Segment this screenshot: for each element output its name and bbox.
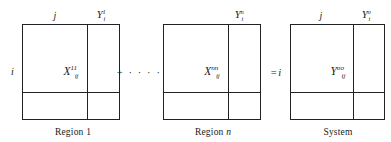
- block-3-center-variable: Yooij: [330, 66, 345, 78]
- block-2-vertical-divider: [228, 25, 229, 119]
- block-3-center-subscript: ij: [342, 73, 346, 81]
- equals-row-index: i: [278, 67, 281, 78]
- block-1-center-variable: X11ij: [63, 66, 78, 78]
- block-3-corner-subscript: i: [369, 15, 371, 22]
- block-2-final-demand-variable: Yni: [235, 10, 244, 21]
- block-1-corner-subscript: i: [104, 15, 106, 22]
- block-2-corner-superscript: n: [240, 8, 243, 15]
- block-1-center-subscript: ij: [75, 73, 79, 81]
- block-3-caption: System: [323, 127, 352, 137]
- block-1-corner-superscript: 1: [102, 8, 105, 15]
- block-2-center-symbol: X: [204, 65, 211, 77]
- block-3-caption-text: System: [323, 127, 352, 137]
- block-1-column-index-label: j: [54, 11, 57, 21]
- block-1-center-symbol: X: [63, 65, 70, 77]
- block-2-center-subscript: ij: [216, 73, 220, 81]
- block-3-column-index-label: j: [320, 11, 323, 21]
- block-2-horizontal-divider: [164, 92, 260, 93]
- block-1-final-demand-variable: Y1i: [97, 10, 106, 21]
- block-1-vertical-divider: [87, 25, 88, 119]
- block-1-row-index-label: i: [11, 67, 14, 77]
- block-1-horizontal-divider: [23, 92, 119, 93]
- block-1-caption-text: Region 1: [55, 127, 91, 137]
- block-1-center-superscript: 11: [70, 64, 77, 72]
- equals-connector-operator: =i: [271, 67, 281, 78]
- equals-sign: =: [271, 67, 279, 78]
- block-2-corner-subscript: i: [242, 15, 244, 22]
- block-3-corner-superscript: o: [367, 8, 370, 15]
- block-2-caption-text: Region: [195, 127, 226, 137]
- block-1-caption: Region 1: [55, 127, 91, 137]
- block-3-final-demand-variable: Yoi: [362, 10, 371, 21]
- block-3-center-superscript: oo: [337, 64, 344, 72]
- block-2-center-superscript: nn: [211, 64, 218, 72]
- block-2-center-variable: Xnnij: [204, 66, 220, 78]
- block-3-horizontal-divider: [291, 92, 384, 93]
- figure-canvas: j i X11ij Y1i Region 1 + · · · · + Xnnij…: [0, 0, 391, 142]
- block-3-vertical-divider: [353, 25, 354, 119]
- block-2-caption: Region n: [195, 127, 231, 137]
- block-2-caption-italic: n: [226, 127, 231, 137]
